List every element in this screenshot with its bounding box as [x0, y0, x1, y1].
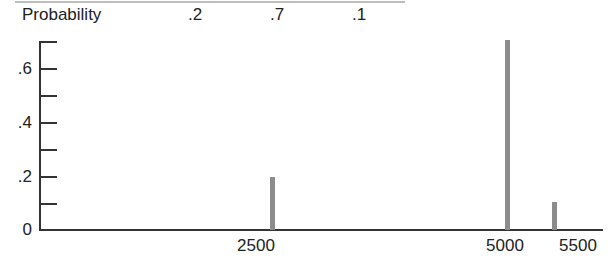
y-tick-0.7	[40, 41, 57, 43]
bar-5500	[552, 202, 557, 230]
probability-value-5000: .7	[270, 5, 284, 25]
y-label-0.4: .4	[2, 113, 32, 133]
x-axis	[39, 229, 603, 231]
probability-label: Probability	[22, 5, 101, 25]
x-label-5000: 5000	[475, 236, 535, 256]
table-bottom-rule	[15, 1, 405, 3]
y-label-0.6: .6	[2, 59, 32, 79]
y-tick-0.3	[40, 149, 57, 151]
x-label-2500: 2500	[226, 236, 286, 256]
y-tick-0.4	[40, 122, 57, 124]
bar-5000	[505, 40, 510, 230]
probability-value-5500: .1	[352, 5, 366, 25]
y-label-0: 0	[2, 220, 32, 240]
y-label-0.2: .2	[2, 167, 32, 187]
y-tick-0.6	[40, 68, 57, 70]
probability-row: Probability .2 .7 .1	[0, 5, 611, 31]
y-tick-0.1	[40, 203, 57, 205]
y-tick-0.5	[40, 95, 57, 97]
bar-2500	[270, 177, 275, 230]
probability-value-2500: .2	[188, 5, 202, 25]
x-label-5500: 5500	[548, 236, 608, 256]
y-tick-0.2	[40, 176, 57, 178]
